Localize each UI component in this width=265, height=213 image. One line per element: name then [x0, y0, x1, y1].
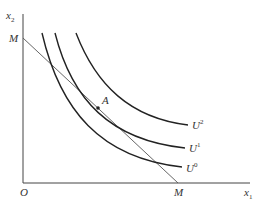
- indifference-diagram: x2 M A U2 U1 U0 O M x1: [0, 0, 265, 213]
- point-a-label: A: [101, 94, 109, 106]
- u0-label: U0: [186, 161, 198, 174]
- origin-label: O: [20, 186, 28, 198]
- budget-x-intercept-label: M: [173, 186, 184, 198]
- indifference-curve-u0: [42, 33, 182, 167]
- u1-label: U1: [189, 141, 201, 154]
- budget-line: [23, 38, 178, 183]
- budget-y-intercept-label: M: [8, 32, 19, 44]
- u2-label: U2: [192, 118, 204, 131]
- y-axis-label: x2: [5, 9, 15, 24]
- indifference-curve-u2: [76, 33, 188, 125]
- tangency-point-a: [96, 106, 100, 110]
- indifference-curve-u1: [55, 33, 185, 148]
- x-axis-label: x1: [243, 186, 253, 201]
